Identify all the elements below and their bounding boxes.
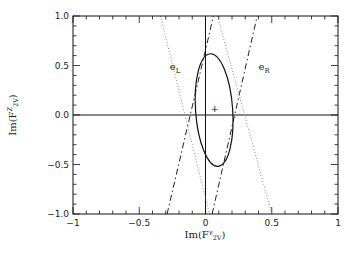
chart: + −1−0.500.51 −1.0−0.50.00.51.0 eLeR Im(… xyxy=(0,0,348,256)
x-axis-title: Im(Fγ2V) xyxy=(185,228,226,242)
x-tick-label: −0.5 xyxy=(128,218,150,228)
y-axis-tick-labels: −1.0−0.50.00.51.0 xyxy=(47,11,69,219)
y-tick-label: 1.0 xyxy=(55,11,70,21)
line-label-e-l: eL xyxy=(170,61,181,75)
y-tick-label: −1.0 xyxy=(47,209,69,219)
y-tick-label: 0.5 xyxy=(55,61,69,71)
zero-reference-lines xyxy=(73,16,338,214)
x-tick-label: 0.5 xyxy=(265,218,279,228)
y-tick-label: 0.0 xyxy=(55,110,70,120)
y-tick-label: −0.5 xyxy=(47,160,69,170)
annotations: eLeR xyxy=(170,61,271,75)
x-tick-label: −1 xyxy=(66,218,79,228)
line-label-e-r: eR xyxy=(259,61,271,75)
x-tick-label: 1 xyxy=(335,218,341,228)
central-value-marker: + xyxy=(211,103,219,114)
y-axis-title: Im(FZ2V) xyxy=(6,94,20,136)
x-axis-tick-labels: −1−0.500.51 xyxy=(66,218,341,228)
x-tick-label: 0 xyxy=(203,218,209,228)
